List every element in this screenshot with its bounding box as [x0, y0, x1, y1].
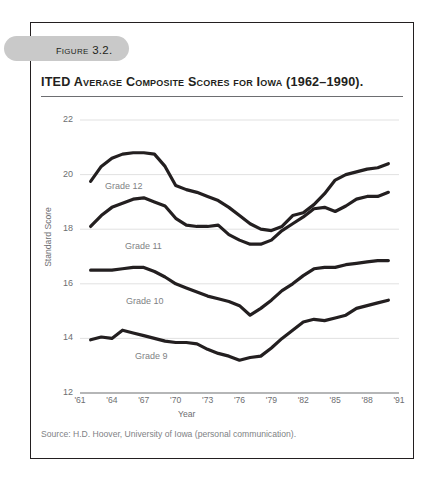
series-label-grade-9: Grade 9 [135, 351, 168, 361]
x-tick-70: '70 [162, 395, 190, 405]
y-tick-18: 18 [51, 223, 73, 233]
title-divider [41, 96, 403, 97]
series-label-grade-11: Grade 11 [125, 241, 162, 251]
x-tick-67: '67 [130, 395, 158, 405]
x-tick-82: '82 [289, 395, 317, 405]
y-tick-16: 16 [51, 278, 73, 288]
x-tick-85: '85 [321, 395, 349, 405]
y-tick-20: 20 [51, 169, 73, 179]
x-tick-76: '76 [226, 395, 254, 405]
x-axis-title: Year [178, 409, 195, 419]
x-tick-91: '91 [385, 395, 413, 405]
y-tick-14: 14 [51, 332, 73, 342]
figure-tag-label: Figure 3.2. [56, 42, 113, 57]
source-note: Source: H.D. Hoover, University of Iowa … [41, 429, 296, 439]
x-tick-79: '79 [257, 395, 285, 405]
series-label-grade-10: Grade 10 [126, 296, 164, 306]
y-tick-22: 22 [51, 114, 73, 124]
figure-root: Figure 3.2. ITED Average Composite Score… [0, 0, 436, 481]
x-tick-61: '61 [66, 395, 94, 405]
series-label-grade-12: Grade 12 [105, 181, 143, 191]
y-axis-title: Standard Score [43, 177, 53, 297]
chart-title: ITED Average Composite Scores for Iowa (… [41, 75, 403, 89]
x-tick-73: '73 [194, 395, 222, 405]
x-tick-64: '64 [98, 395, 126, 405]
x-tick-88: '88 [353, 395, 381, 405]
